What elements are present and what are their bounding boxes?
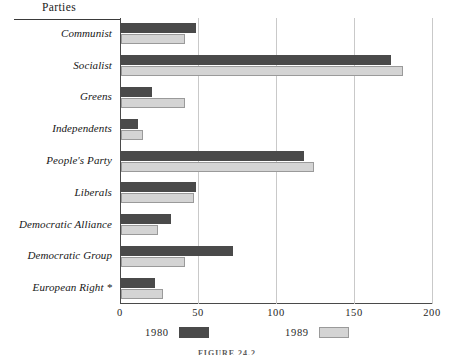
bar-1989-1 [121,66,403,76]
bar-1989-3 [121,130,143,140]
bar-1989-4 [121,162,314,172]
bar-1980-7 [121,246,233,256]
chart-legend: 19801989 [0,326,454,344]
bar-1980-8 [121,278,155,288]
legend-label-1989: 1989 [285,327,309,338]
legend-entry-1989[interactable]: 1989 [285,326,375,342]
bar-chart-figure: Parties CommunistSocialistGreensIndepend… [0,0,454,355]
category-label-6: Democratic Alliance [19,218,112,230]
category-label-1: Socialist [73,59,112,71]
bar-1989-6 [121,225,158,235]
legend-label-1980: 1980 [145,327,169,338]
parties-column-header: Parties [0,0,124,22]
bar-1980-2 [121,87,152,97]
page-title: Parties [0,1,118,13]
x-axis-tick-labels: 050100150200 [120,307,440,323]
category-label-3: Independents [52,122,112,134]
bar-1989-7 [121,257,185,267]
x-tick-label-150: 150 [345,307,363,318]
bar-1980-0 [121,23,196,33]
x-tick-label-200: 200 [423,307,441,318]
gridline-200 [432,18,433,304]
category-label-2: Greens [80,90,112,102]
figure-caption: FIGURE 24.2 [0,349,454,355]
category-label-0: Communist [61,27,112,39]
bar-1980-5 [121,182,196,192]
category-label-column: CommunistSocialistGreensIndependentsPeop… [0,22,116,304]
bar-1989-5 [121,193,194,203]
category-label-4: People's Party [46,154,112,166]
category-label-7: Democratic Group [27,249,112,261]
bar-1980-4 [121,151,304,161]
plot-area [120,18,432,304]
x-tick-label-100: 100 [267,307,285,318]
header-divider [14,19,120,20]
legend-entry-1980[interactable]: 1980 [145,326,235,342]
bar-1980-6 [121,214,171,224]
light-gray-swatch [319,327,349,338]
bar-1989-0 [121,34,185,44]
category-label-8: European Right * [33,281,112,293]
bar-1989-8 [121,289,163,299]
x-tick-label-50: 50 [192,307,204,318]
x-tick-label-0: 0 [117,307,123,318]
bar-1980-1 [121,55,391,65]
bar-1980-3 [121,119,138,129]
category-label-5: Liberals [75,186,112,198]
dark-gray-swatch [179,327,209,338]
bar-1989-2 [121,98,185,108]
